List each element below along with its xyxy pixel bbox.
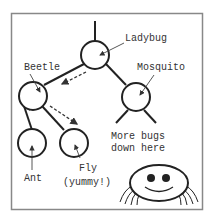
label-fly-sub: (yummy!) <box>63 177 111 188</box>
edge-mosquito-right-child <box>144 110 156 123</box>
more-note-line1: More bugs <box>111 131 165 142</box>
traversal-arrow-beetle-fly <box>50 106 77 124</box>
edge-ladybug-mosquito <box>106 64 126 85</box>
label-mosquito: Mosquito <box>137 62 185 73</box>
spider-eye-right <box>162 174 170 182</box>
edge-mosquito-left-child <box>116 110 128 123</box>
spider-icon <box>120 165 198 205</box>
bug-tree-diagram: Ladybug Beetle Mosquito Ant Fly (yummy!)… <box>0 0 212 220</box>
spider-eye-left <box>147 174 155 182</box>
node-ladybug <box>81 41 109 69</box>
label-fly: Fly <box>79 163 97 174</box>
label-ant: Ant <box>24 173 42 184</box>
label-beetle: Beetle <box>24 62 60 73</box>
edge-beetle-fly <box>42 106 64 130</box>
node-beetle <box>19 82 47 110</box>
more-note-line2: down here <box>111 143 165 154</box>
node-fly <box>60 129 88 157</box>
label-ladybug: Ladybug <box>125 33 167 44</box>
